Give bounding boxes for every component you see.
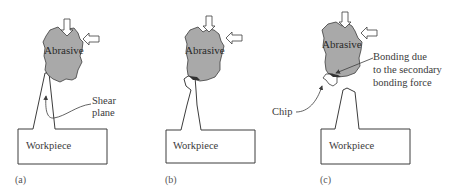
bonding-label-line3: bonding force (373, 77, 432, 90)
caption-a: (a) (15, 175, 26, 185)
abrasive-grinding-diagram: Abrasive Shear plane Workpiece (a) Abras… (0, 0, 461, 196)
chip-label: Chip (272, 106, 292, 119)
leftward-force-arrow-c (361, 27, 377, 39)
shear-plane-label-line1: Shear (92, 95, 116, 108)
workpiece-label-b: Workpiece (173, 141, 218, 152)
leftward-force-arrow-a (83, 33, 99, 45)
abrasive-label-c: Abrasive (322, 39, 362, 50)
bonding-label-line2: to the secondary (373, 64, 442, 77)
shear-plane-label-line2: plane (92, 107, 115, 120)
leftward-force-arrow-b (226, 32, 242, 44)
caption-b: (b) (165, 175, 177, 185)
workpiece-label-a: Workpiece (26, 141, 71, 152)
workpiece-label-c: Workpiece (329, 141, 374, 152)
chip-pointer (296, 86, 322, 112)
bonding-label-line1: Bonding due (373, 51, 427, 64)
caption-c: (c) (320, 175, 331, 185)
abrasive-label-b: Abrasive (185, 45, 225, 56)
workpiece-shape-c (321, 88, 410, 164)
diagram-graphics (0, 0, 461, 196)
abrasive-label-a: Abrasive (44, 45, 84, 56)
